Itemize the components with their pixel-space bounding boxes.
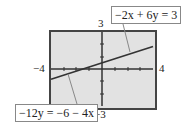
equation-label-bottom: −12y = −6 − 4x: [15, 104, 98, 122]
equation-label-top: −2x + 6y = 3: [111, 6, 181, 24]
y-max-label: 3: [98, 18, 104, 29]
x-max-label: 4: [159, 63, 165, 74]
leader-bottom: [68, 74, 77, 104]
leader-top: [123, 24, 130, 52]
x-min-label: −4: [33, 63, 45, 74]
